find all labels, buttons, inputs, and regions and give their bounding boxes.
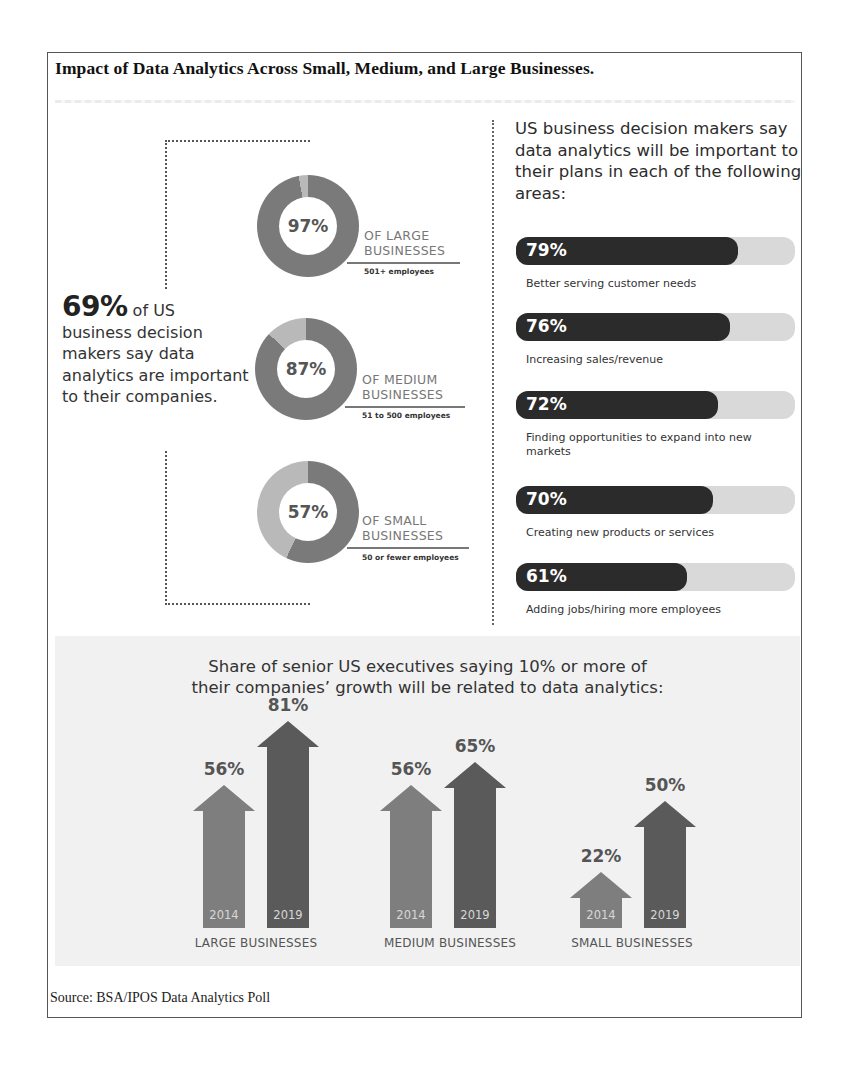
hbar-customer-needs: 79% — [516, 237, 795, 265]
dotted-divider — [492, 120, 494, 625]
growth-arrow-2014: 2014 — [570, 872, 632, 928]
arrow-value-label: 50% — [625, 775, 705, 795]
donut-label-medium: OF MEDIUM BUSINESSES — [362, 372, 443, 402]
hbar-sales-revenue: 76% — [516, 313, 795, 341]
bar-label: Better serving customer needs — [526, 277, 796, 291]
donut-rule — [347, 547, 469, 549]
hbar-new-markets: 72% — [516, 391, 795, 419]
group-label-medium: MEDIUM BUSINESSES — [350, 936, 550, 950]
bar-label: Creating new products or services — [526, 526, 796, 540]
bar-value: 76% — [526, 316, 567, 336]
hbar-new-products: 70% — [516, 486, 795, 514]
donut-label-line1: OF LARGE — [364, 228, 445, 243]
growth-arrow-2019: 2019 — [634, 801, 696, 929]
donut-label-line1: OF SMALL — [362, 513, 443, 528]
arrow-value-label: 56% — [371, 759, 451, 779]
right-heading: US business decision makers say data ana… — [515, 118, 805, 204]
growth-arrow-2014: 2014 — [380, 785, 442, 928]
arrow-head-icon — [193, 785, 255, 811]
arrow-value-label: 56% — [184, 759, 264, 779]
donut-label-line1: OF MEDIUM — [362, 372, 443, 387]
group-label-large: LARGE BUSINESSES — [156, 936, 356, 950]
donut-sub-large: 501+ employees — [364, 267, 434, 276]
growth-title-line1: Share of senior US executives saying 10%… — [55, 656, 800, 677]
bar-value: 61% — [526, 566, 567, 586]
arrow-shaft — [267, 746, 309, 928]
donut-rule — [347, 262, 460, 264]
bar-label: Finding opportunities to expand into new… — [526, 431, 766, 459]
arrow-value-label: 22% — [561, 846, 641, 866]
arrow-value-label: 81% — [248, 695, 328, 715]
headline-69-percent: 69% of US business decision makers say d… — [62, 296, 252, 408]
growth-title: Share of senior US executives saying 10%… — [55, 656, 800, 698]
headline-rest: business decision makers say data analyt… — [62, 323, 249, 407]
donut-value: 57% — [279, 483, 337, 541]
arrow-year-label: 2019 — [257, 908, 319, 922]
bar-value: 79% — [526, 240, 567, 260]
growth-arrow-2019: 2019 — [257, 721, 319, 928]
arrow-head-icon — [444, 762, 506, 788]
donut-label-large: OF LARGE BUSINESSES — [364, 228, 445, 258]
arrow-year-label: 2014 — [570, 908, 632, 922]
donut-value: 87% — [277, 340, 335, 398]
arrow-head-icon — [257, 721, 319, 747]
arrow-shaft — [454, 787, 496, 928]
donut-sub-small: 50 or fewer employees — [362, 553, 459, 562]
donut-label-line2: BUSINESSES — [362, 387, 443, 402]
donut-label-line2: BUSINESSES — [362, 528, 443, 543]
arrow-year-label: 2014 — [193, 908, 255, 922]
headline-big-number: 69% — [62, 290, 128, 323]
arrow-year-label: 2014 — [380, 908, 442, 922]
faint-scan-line — [55, 100, 795, 103]
group-label-small: SMALL BUSINESSES — [532, 936, 732, 950]
arrow-year-label: 2019 — [634, 908, 696, 922]
donut-rule — [345, 406, 465, 408]
donut-label-line2: BUSINESSES — [364, 243, 445, 258]
bar-label: Adding jobs/hiring more employees — [526, 603, 796, 617]
hbar-adding-jobs: 61% — [516, 563, 795, 591]
growth-arrow-2019: 2019 — [444, 762, 506, 928]
donut-label-small: OF SMALL BUSINESSES — [362, 513, 443, 543]
donut-small-businesses: 57% — [257, 461, 359, 563]
arrow-head-icon — [380, 785, 442, 811]
donut-large-businesses: 97% — [257, 175, 359, 277]
headline-line1: of US — [128, 301, 175, 320]
arrow-head-icon — [634, 801, 696, 827]
arrow-year-label: 2019 — [444, 908, 506, 922]
bar-value: 70% — [526, 489, 567, 509]
donut-sub-medium: 51 to 500 employees — [362, 411, 450, 420]
arrow-value-label: 65% — [435, 736, 515, 756]
growth-arrow-2014: 2014 — [193, 785, 255, 928]
source-note: Source: BSA/IPOS Data Analytics Poll — [50, 990, 270, 1006]
growth-title-line2: their companies’ growth will be related … — [55, 677, 800, 698]
document-title: Impact of Data Analytics Across Small, M… — [55, 58, 594, 79]
bar-label: Increasing sales/revenue — [526, 353, 796, 367]
bar-value: 72% — [526, 394, 567, 414]
donut-medium-businesses: 87% — [255, 318, 357, 420]
arrow-head-icon — [570, 872, 632, 898]
donut-value: 97% — [279, 197, 337, 255]
